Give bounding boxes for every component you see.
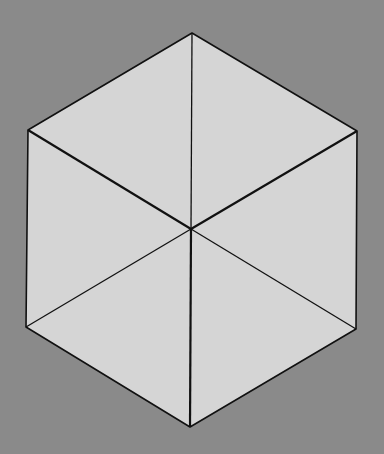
spoke-line [190,229,191,427]
hexagon-diagram [0,0,384,454]
diagram-canvas [0,0,384,454]
